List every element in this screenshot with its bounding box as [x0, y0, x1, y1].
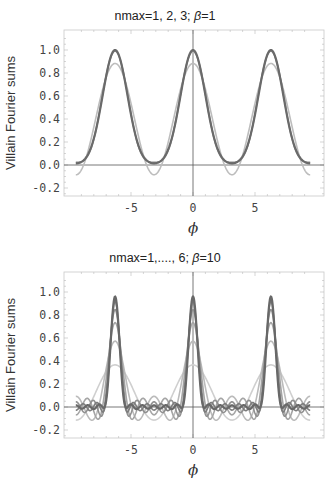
y-tick-label: 1.0	[39, 285, 60, 299]
y-tick-label: 0.6	[39, 331, 60, 345]
y-tick-label: 0.0	[39, 400, 60, 414]
y-axis-label: Villain Fourier sums	[3, 298, 18, 412]
y-tick-label: 0.2	[39, 377, 60, 391]
y-tick-label: -0.2	[32, 423, 60, 437]
x-axis-label: ϕ	[188, 461, 198, 479]
y-tick-label: 0.4	[39, 354, 60, 368]
x-tick-label: 0	[190, 443, 197, 457]
line-chart: -505-0.20.00.20.40.60.81.0ϕVillain Fouri…	[0, 0, 330, 485]
x-tick-label: -5	[124, 443, 138, 457]
y-tick-label: 0.8	[39, 308, 60, 322]
x-tick-label: 5	[252, 443, 259, 457]
chart-panel-beta-10: nmax=1,...., 6; β=10 -505-0.20.00.20.40.…	[0, 0, 330, 485]
